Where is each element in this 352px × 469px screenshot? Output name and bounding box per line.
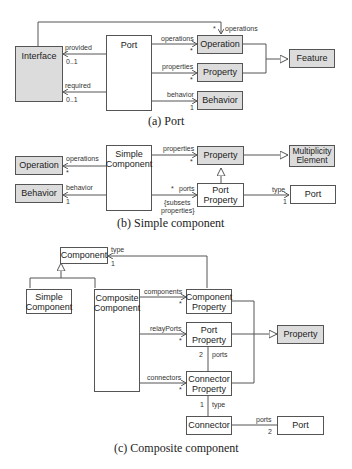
caption-composite-component: (c) Composite component [114,441,239,456]
label-type-bottom: type [212,401,225,409]
label-required: required [65,82,91,90]
label-properties-mult: * [190,76,193,84]
label-operations-mult: * [190,47,193,55]
label-type-top: type [111,246,124,254]
caption-simple-component: (b) Simple component [117,216,224,231]
label-type-b-mult: 1 [283,198,287,206]
class-operation-b: Operation [15,156,63,175]
label-subsets-1: {subsets [164,199,190,207]
class-multiplicity-element: Multiplicity Element [289,145,335,167]
label-ports-mult: * [171,185,174,193]
class-interface: Interface [15,46,63,102]
label-ports: ports [179,185,195,193]
label-relayports-mult: * [179,337,182,345]
label-behavior-b-mult: 1 [66,198,70,206]
label-provided-mult: 0..1 [66,58,78,66]
label-type-top-mult: 1 [111,260,115,268]
class-property-b: Property [197,146,244,165]
class-component-property: Component Property [186,289,232,314]
label-behavior-mult: 1 [190,104,194,112]
class-feature: Feature [289,49,335,68]
label-type-b: type [272,186,285,194]
class-port-property: Port Property [197,183,244,207]
label-subsets-2: properties} [161,207,194,215]
label-ports-bottom-mult: 2 [268,428,272,436]
label-required-mult: 0..1 [66,96,78,104]
label-operations-b-mult: * [66,169,69,177]
label-components: components [144,288,182,296]
label-connectors-mult: * [179,386,182,394]
label-properties-b-mult: * [190,158,193,166]
class-simple-component-c: Simple Component [26,289,72,314]
label-provided: provided [65,44,92,52]
label-ports-bottom: ports [256,416,272,424]
class-port-b: Port [290,185,336,204]
class-property-c: Property [277,325,324,344]
label-top-operations-mult: * [213,25,216,33]
label-top-operations: operations [225,25,258,33]
class-port-property-c: Port Property [186,322,232,347]
class-port: Port [106,35,152,111]
label-ports-mid: ports [212,351,228,359]
class-connector: Connector [186,416,232,435]
label-components-mult: * [179,300,182,308]
label-operations: operations [161,35,194,43]
class-connector-property: Connector Property [186,371,232,396]
class-behavior-b: Behavior [15,184,63,203]
label-properties: properties [162,63,193,71]
class-component: Component [60,247,108,264]
label-behavior-b: behavior [66,184,93,192]
label-ports-mid-mult: 2 [199,351,203,359]
label-behavior: behavior [167,91,194,99]
class-behavior: Behavior [197,91,243,110]
class-property: Property [197,63,243,82]
label-type-bottom-mult: 1 [200,401,204,409]
class-composite-component: Composite Component [94,289,140,392]
label-operations-b: operations [66,155,99,163]
label-relayports: relayPorts [150,325,182,333]
class-operation: Operation [197,35,243,54]
label-properties-b: properties [163,145,194,153]
caption-port: (a) Port [148,114,184,129]
class-port-c: Port [277,416,324,435]
class-simple-component: Simple Component [106,145,152,211]
label-connectors: connectors [147,374,181,382]
